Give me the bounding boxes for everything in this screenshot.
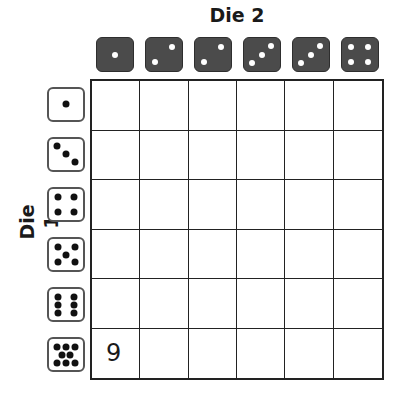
grid-cell-r5-c4[interactable] xyxy=(237,279,285,329)
grid-cell-r4-c5[interactable] xyxy=(285,230,333,280)
pip xyxy=(63,343,70,350)
grid-cell-r3-c2[interactable] xyxy=(140,180,188,230)
pip xyxy=(317,43,323,49)
grid-cell-r1-c3[interactable] xyxy=(189,81,237,131)
grid-cell-r1-c4[interactable] xyxy=(237,81,285,131)
grid-cell-r2-c4[interactable] xyxy=(237,131,285,181)
grid-cell-r3-c5[interactable] xyxy=(285,180,333,230)
grid-cell-r2-c5[interactable] xyxy=(285,131,333,181)
grid-cell-r3-c1[interactable] xyxy=(92,180,140,230)
pip xyxy=(55,301,62,308)
grid-cell-r4-c3[interactable] xyxy=(189,230,237,280)
grid-cell-r3-c3[interactable] xyxy=(189,180,237,230)
grid-cell-r4-c6[interactable] xyxy=(334,230,382,280)
pip xyxy=(58,351,65,358)
die-face-4-icon xyxy=(341,37,379,72)
pip xyxy=(348,44,354,50)
pip xyxy=(54,243,61,250)
grid-cell-r1-c2[interactable] xyxy=(140,81,188,131)
grid-cell-r5-c6[interactable] xyxy=(334,279,382,329)
die-face-1-icon xyxy=(47,87,85,122)
pip xyxy=(201,59,207,65)
pip xyxy=(308,52,314,58)
grid-cell-r1-c6[interactable] xyxy=(334,81,382,131)
pip xyxy=(55,294,62,301)
pip xyxy=(70,301,77,308)
pip xyxy=(218,44,224,50)
grid-cell-r5-c1[interactable] xyxy=(92,279,140,329)
die-face-8-icon xyxy=(47,337,85,372)
pip xyxy=(54,143,61,150)
grid-cell-r2-c2[interactable] xyxy=(140,131,188,181)
die-1-label: Die 1 xyxy=(15,197,39,247)
die-face-3-icon xyxy=(292,37,330,72)
grid-cell-r2-c3[interactable] xyxy=(189,131,237,181)
pip xyxy=(259,52,265,58)
pip xyxy=(70,294,77,301)
grid-cell-r5-c2[interactable] xyxy=(140,279,188,329)
pip xyxy=(70,309,77,316)
die-face-3-icon xyxy=(47,137,85,172)
die-face-2-icon xyxy=(145,37,183,72)
grid-cell-r6-c2[interactable] xyxy=(140,329,188,379)
pip xyxy=(70,208,77,215)
die-2-label: Die 2 xyxy=(187,4,287,26)
pip xyxy=(54,359,61,366)
grid-cell-r4-c4[interactable] xyxy=(237,230,285,280)
pip xyxy=(71,343,78,350)
grid-cell-r4-c2[interactable] xyxy=(140,230,188,280)
pip xyxy=(71,159,78,166)
grid-cell-r5-c3[interactable] xyxy=(189,279,237,329)
grid-cell-r6-c6[interactable] xyxy=(334,329,382,379)
die-face-2-icon xyxy=(194,37,232,72)
pip xyxy=(54,259,61,266)
pip xyxy=(365,44,371,50)
grid-cell-r2-c6[interactable] xyxy=(334,131,382,181)
pip xyxy=(152,59,158,65)
pip xyxy=(348,59,354,65)
grid-cell-r1-c5[interactable] xyxy=(285,81,333,131)
grid-cell-r3-c4[interactable] xyxy=(237,180,285,230)
pip xyxy=(249,60,255,66)
die-face-6-icon xyxy=(47,287,85,322)
die-face-4-icon xyxy=(47,187,85,222)
pip xyxy=(63,359,70,366)
pip xyxy=(71,259,78,266)
grid-cell-r2-c1[interactable] xyxy=(92,131,140,181)
die-face-3-icon xyxy=(243,37,281,72)
grid-cell-r4-c1[interactable] xyxy=(92,230,140,280)
pip xyxy=(55,208,62,215)
die-face-5-icon xyxy=(47,237,85,272)
pip xyxy=(71,243,78,250)
grid-cell-r5-c5[interactable] xyxy=(285,279,333,329)
pip xyxy=(63,151,70,158)
grid-cell-r6-c5[interactable] xyxy=(285,329,333,379)
pip xyxy=(298,60,304,66)
grid-cell-r3-c6[interactable] xyxy=(334,180,382,230)
sum-table-grid: 9 xyxy=(90,79,384,380)
pip xyxy=(169,44,175,50)
pip xyxy=(112,52,118,58)
pip xyxy=(70,194,77,201)
pip xyxy=(365,59,371,65)
grid-cell-r6-c3[interactable] xyxy=(189,329,237,379)
pip xyxy=(55,194,62,201)
pip xyxy=(63,251,70,258)
grid-cell-r1-c1[interactable] xyxy=(92,81,140,131)
cell-value: 9 xyxy=(106,339,121,367)
pip xyxy=(54,343,61,350)
die-face-1-icon xyxy=(96,37,134,72)
grid-cell-r6-c4[interactable] xyxy=(237,329,285,379)
pip xyxy=(63,101,70,108)
pip xyxy=(55,309,62,316)
pip xyxy=(71,359,78,366)
grid-cell-r6-c1[interactable]: 9 xyxy=(92,329,140,379)
pip xyxy=(67,351,74,358)
pip xyxy=(268,43,274,49)
